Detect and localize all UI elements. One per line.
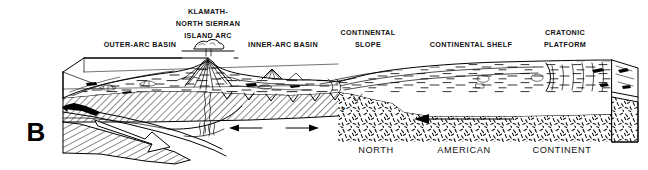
diagram-canvas: ? OUTER-ARC BASIN KLAMATH- NORTH SIERRAN… <box>0 0 648 170</box>
label-continental-slope-line-0: CONTINENTAL <box>341 28 396 37</box>
geologic-block-diagram-figure: ? OUTER-ARC BASIN KLAMATH- NORTH SIERRAN… <box>0 0 648 170</box>
uncertainty-marker: ? <box>341 105 346 114</box>
label-continental-slope-line-1: SLOPE <box>355 40 381 49</box>
label-continent: CONTINENT <box>533 145 592 155</box>
label-inner-arc-basin-line-0: INNER-ARC BASIN <box>248 40 318 49</box>
label-klamath-line-1: NORTH SIERRAN <box>176 19 240 28</box>
label-klamath-north-sierran-island-arc: KLAMATH- NORTH SIERRAN ISLAND ARC <box>176 7 240 40</box>
label-cratonic-platform-line-0: CRATONIC <box>545 28 585 37</box>
label-cratonic-platform: CRATONIC PLATFORM <box>544 28 586 49</box>
label-continental-shelf-line-0: CONTINENTAL SHELF <box>430 40 513 49</box>
label-outer-arc-basin: OUTER-ARC BASIN <box>104 40 177 49</box>
label-north-american-continent: NORTH AMERICAN CONTINENT <box>358 145 591 155</box>
panel-letter: B <box>27 117 46 147</box>
label-north: NORTH <box>358 145 394 155</box>
label-continental-slope: CONTINENTAL SLOPE <box>341 28 396 49</box>
label-klamath-line-0: KLAMATH- <box>188 7 228 16</box>
label-cratonic-platform-line-1: PLATFORM <box>544 40 586 49</box>
label-american: AMERICAN <box>437 145 490 155</box>
label-outer-arc-basin-line-0: OUTER-ARC BASIN <box>104 40 177 49</box>
extension-arrow-right <box>286 125 319 132</box>
label-inner-arc-basin: INNER-ARC BASIN <box>248 40 318 49</box>
subducting-slab <box>63 122 190 164</box>
label-klamath-line-2: ISLAND ARC <box>184 31 232 40</box>
block-right-face <box>612 60 638 142</box>
extension-arrow-left <box>229 125 262 132</box>
volcano-plume-icon <box>182 39 234 56</box>
arc-basement-hatched-block <box>63 91 338 122</box>
label-continental-shelf: CONTINENTAL SHELF <box>430 40 513 49</box>
